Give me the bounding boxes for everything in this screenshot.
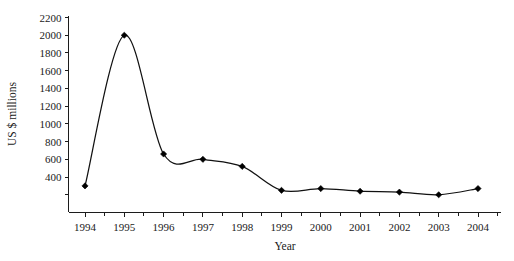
x-axis-tick-label: 1997 (192, 221, 215, 233)
x-axis-tick-label: 1994 (74, 221, 97, 233)
y-axis-tick-label: 1400 (40, 82, 63, 94)
x-axis-tick-label: 1996 (153, 221, 176, 233)
x-axis-tick-label: 2004 (467, 221, 490, 233)
x-axis-tick-labels: 1994199519961997199819992000200120022003… (74, 221, 490, 233)
y-axis-ticks (65, 18, 69, 195)
x-axis-title: Year (274, 240, 295, 252)
y-axis-tick-label: 1800 (40, 47, 63, 59)
series-markers (82, 32, 481, 198)
y-axis-tick-label: 600 (45, 153, 62, 165)
data-point-marker (82, 183, 88, 189)
data-point-marker (239, 163, 245, 169)
y-axis-title: US $ millions (6, 82, 18, 146)
data-point-marker (436, 192, 442, 198)
data-point-marker (357, 188, 363, 194)
chart-figure: 2200200018001600140012001000800600400 19… (0, 0, 514, 261)
data-point-marker (396, 189, 402, 195)
y-axis-tick-label: 1600 (40, 65, 63, 77)
y-axis-tick-label: 1000 (40, 118, 63, 130)
x-axis-tick-label: 1995 (113, 221, 136, 233)
x-axis-tick-label: 1998 (231, 221, 254, 233)
data-point-marker (200, 156, 206, 162)
series-line-us-dollars-millions (85, 35, 478, 195)
y-axis-tick-labels: 2200200018001600140012001000800600400 (40, 12, 63, 184)
data-point-marker (475, 185, 481, 191)
x-axis-tick-label: 2001 (349, 221, 371, 233)
y-axis-tick-label: 800 (45, 136, 62, 148)
line-chart: 2200200018001600140012001000800600400 19… (0, 0, 514, 261)
x-axis-tick-label: 2000 (310, 221, 333, 233)
x-axis-tick-label: 1999 (271, 221, 294, 233)
data-point-marker (318, 185, 324, 191)
x-axis-tick-label: 2003 (428, 221, 451, 233)
data-point-marker (278, 187, 284, 193)
x-axis-tick-label: 2002 (388, 221, 410, 233)
y-axis-tick-label: 400 (45, 171, 62, 183)
y-axis-tick-label: 2200 (40, 12, 63, 24)
y-axis-tick-label: 2000 (40, 29, 63, 41)
y-axis-tick-label: 1200 (40, 100, 63, 112)
